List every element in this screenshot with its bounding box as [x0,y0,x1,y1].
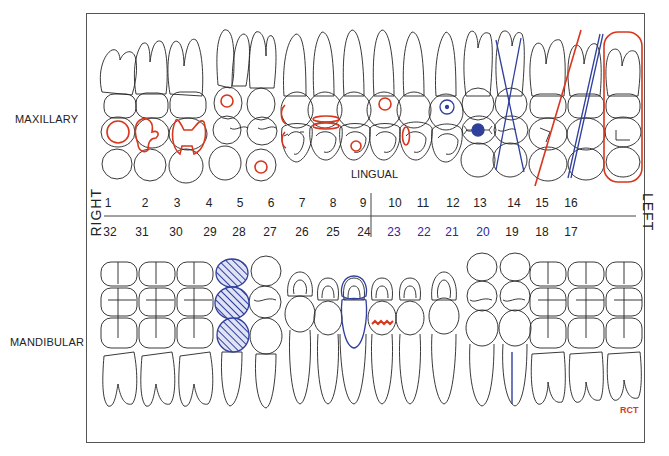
tooth-number-5[interactable]: 5 [228,196,252,210]
tooth-number-24[interactable]: 24 [352,225,376,239]
tooth-16-outline [604,32,642,182]
tooth-8 [337,30,371,160]
tooth-number-28[interactable]: 28 [227,225,251,239]
tooth-2 [134,41,169,181]
tooth-7 [308,32,342,160]
tooth-29 [221,352,242,406]
tooth-4 [209,30,250,180]
tooth-8-restoration [351,141,361,151]
tooth-number-32[interactable]: 32 [98,225,122,239]
tooth-28 [249,256,282,408]
tooth-12 [461,31,496,177]
tooth-number-16[interactable]: 16 [559,196,583,210]
tooth-number-20[interactable]: 20 [471,225,495,239]
tooth-3 [168,39,207,183]
tooth-14 [529,40,567,181]
tooth-1 [100,50,136,179]
tooth-number-27[interactable]: 27 [258,225,282,239]
tooth-number-14[interactable]: 14 [502,196,526,210]
tooth-7-band-top [313,116,339,122]
tooth-number-4[interactable]: 4 [197,196,221,210]
tooth-29-crown-lingual [217,318,249,352]
tooth-26 [314,278,342,404]
tooth-29-crown-facial [216,259,248,287]
tooth-number-18[interactable]: 18 [530,225,554,239]
tooth-6-lingual [282,132,286,148]
tooth-25-crown-outline-top [342,276,367,299]
tooth-25-crown-outline [342,299,367,349]
tooth-31 [139,262,175,406]
tooth-5-restoration [255,161,267,173]
mandibular-markings [215,259,512,404]
tooth-30 [177,262,213,406]
tooth-number-3[interactable]: 3 [165,196,189,210]
tooth-number-29[interactable]: 29 [198,225,222,239]
tooth-19 [530,262,566,404]
maxillary-arch [100,30,641,183]
tooth-20 [499,253,531,406]
tooth-number-26[interactable]: 26 [290,225,314,239]
tooth-4-restoration [221,95,233,107]
tooth-number-7[interactable]: 7 [290,196,314,210]
mandibular-arch [101,253,642,408]
tooth-12-filled [472,124,484,136]
left-side-label: LEFT [640,193,656,231]
tooth-11-dot [446,106,449,109]
tooth-23 [396,278,424,404]
tooth-number-30[interactable]: 30 [164,225,188,239]
tooth-9 [367,30,401,160]
tooth-number-25[interactable]: 25 [321,225,345,239]
tooth-32 [101,262,137,406]
tooth-number-31[interactable]: 31 [130,225,154,239]
tooth-13-x-a [496,40,524,172]
tooth-number-2[interactable]: 2 [133,196,157,210]
tooth-number-10[interactable]: 10 [383,196,407,210]
rct-label: RCT [620,405,639,415]
tooth-24-fracture [372,321,393,324]
tooth-18 [568,262,604,402]
tooth-number-21[interactable]: 21 [440,225,464,239]
tooth-27 [285,272,315,404]
tooth-29-crown-occlusal [215,287,249,319]
tooth-22 [429,272,459,404]
tooth-6 [281,34,313,162]
tooth-number-9[interactable]: 9 [351,196,375,210]
tooth-number-13[interactable]: 13 [468,196,492,210]
tooth-number-22[interactable]: 22 [412,225,436,239]
tooth-number-12[interactable]: 12 [441,196,465,210]
tooth-number-23[interactable]: 23 [382,225,406,239]
tooth-number-6[interactable]: 6 [259,196,283,210]
tooth-21 [466,253,498,406]
tooth-24 [368,278,396,404]
tooth-5 [246,32,277,181]
tooth-11 [429,32,463,162]
tooth-16 [605,49,641,177]
tooth-number-8[interactable]: 8 [321,196,345,210]
tooth-15-slash-b [571,34,603,178]
tooth-6-mesial [281,105,286,124]
tooth-1-restoration [107,121,129,143]
tooth-9-restoration [379,98,391,110]
tooth-number-15[interactable]: 15 [530,196,554,210]
tooth-number-11[interactable]: 11 [411,196,435,210]
lingual-label: LINGUAL [351,168,398,180]
tooth-number-19[interactable]: 19 [500,225,524,239]
tooth-number-17[interactable]: 17 [559,225,583,239]
tooth-number-1[interactable]: 1 [96,196,120,210]
tooth-17 [606,262,642,400]
